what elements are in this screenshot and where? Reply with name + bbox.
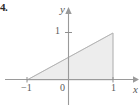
tick-label-x-negative-1: −1 xyxy=(21,83,32,93)
math-figure: 4. y x 1 −1 0 1 xyxy=(0,0,140,111)
x-axis-label: x xyxy=(133,84,138,95)
y-axis-label: y xyxy=(60,4,65,15)
tick-label-y-1: 1 xyxy=(55,26,60,36)
tick-label-x-1: 1 xyxy=(111,83,116,93)
coordinate-plane-graphic xyxy=(0,0,140,111)
x-axis-arrow-icon xyxy=(133,76,139,82)
tick-label-x-0: 0 xyxy=(60,83,65,93)
y-axis-arrow-icon xyxy=(65,7,71,14)
problem-number-label: 4. xyxy=(0,2,7,13)
